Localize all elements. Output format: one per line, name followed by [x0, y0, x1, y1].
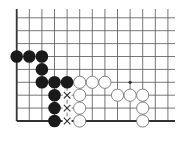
black-stone	[48, 115, 61, 128]
hoshi-point	[129, 81, 132, 84]
white-stone	[74, 115, 86, 127]
white-stone	[111, 89, 123, 101]
white-stone	[137, 115, 149, 127]
white-stone	[137, 89, 149, 101]
white-stone	[86, 76, 98, 88]
black-stone	[10, 50, 23, 63]
black-stone	[36, 63, 49, 76]
black-stone	[48, 102, 61, 115]
black-stone	[61, 76, 74, 89]
white-stone	[99, 76, 111, 88]
black-stone	[48, 76, 61, 89]
star-points	[129, 81, 132, 84]
go-board-diagram	[0, 0, 184, 142]
black-stone	[36, 76, 49, 89]
black-stone	[36, 50, 49, 63]
white-stone	[74, 102, 86, 114]
white-stone	[124, 89, 136, 101]
white-stone	[137, 102, 149, 114]
black-stone	[48, 89, 61, 102]
black-stone	[23, 50, 36, 63]
white-stone	[74, 89, 86, 101]
x-marks	[63, 91, 72, 126]
white-stone	[74, 76, 86, 88]
